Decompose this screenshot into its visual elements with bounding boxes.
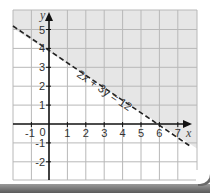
y-tick-label: -1 bbox=[35, 137, 45, 149]
graph-card: -1 0 1 2 3 4 5 6 7 5 4 3 2 1 -1 -2 y x 2… bbox=[0, 0, 210, 193]
x-axis-label: x bbox=[185, 126, 192, 140]
y-tick-label: 1 bbox=[39, 99, 45, 111]
x-tick-label: -1 bbox=[25, 127, 35, 139]
coordinate-graph: -1 0 1 2 3 4 5 6 7 5 4 3 2 1 -1 -2 y x 2… bbox=[0, 0, 210, 193]
x-tick-label: 3 bbox=[101, 127, 107, 139]
y-tick-label: 5 bbox=[39, 24, 45, 36]
y-tick-label: 4 bbox=[39, 42, 45, 54]
y-tick-label: -2 bbox=[35, 156, 45, 168]
y-tick-label: 3 bbox=[39, 61, 45, 73]
x-tick-label: 6 bbox=[156, 127, 162, 139]
x-tick-label: 2 bbox=[83, 127, 89, 139]
x-tick-label: 5 bbox=[138, 127, 144, 139]
card-bottom-edge bbox=[0, 184, 210, 193]
x-tick-label: 4 bbox=[120, 127, 126, 139]
y-tick-label: 2 bbox=[39, 80, 45, 92]
y-axis-label: y bbox=[39, 8, 46, 22]
x-tick-label: 1 bbox=[64, 127, 70, 139]
x-tick-label: 7 bbox=[175, 127, 181, 139]
